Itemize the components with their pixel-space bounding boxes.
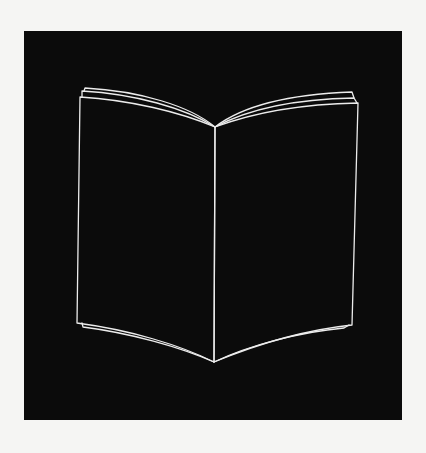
- left-page-layer-1: [82, 91, 215, 127]
- left-page-layer-2: [84, 88, 215, 127]
- right-page: [214, 103, 358, 362]
- right-page-layer-1: [215, 98, 357, 127]
- open-book-icon: [0, 0, 426, 453]
- left-page-bottom-layer: [82, 323, 214, 362]
- left-page: [77, 97, 215, 362]
- right-page-bottom-layer: [214, 325, 349, 362]
